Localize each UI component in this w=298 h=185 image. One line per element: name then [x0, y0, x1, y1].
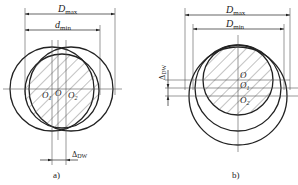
panel-a: Dmax dmin O1 O O2 ΔDW a) — [3, 3, 122, 180]
diagram-canvas: Dmax dmin O1 O O2 ΔDW a) Dmax Dmin O — [0, 0, 298, 185]
caption-b: b) — [232, 170, 240, 180]
label-delta-a: ΔDW — [72, 150, 87, 159]
label-delta-b: ΔDW — [158, 65, 167, 80]
label-o-b: O — [240, 70, 247, 80]
caption-a: a) — [53, 170, 60, 180]
panel-b: Dmax Dmin O O1 O2 ΔDW b) — [158, 4, 298, 180]
diagram-svg: Dmax dmin O1 O O2 ΔDW a) Dmax Dmin O — [0, 0, 298, 185]
label-o-a: O — [55, 88, 62, 98]
